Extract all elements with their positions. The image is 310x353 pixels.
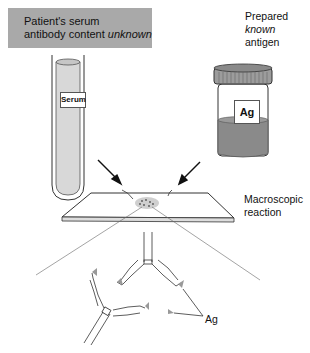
antigen-known-emphasis: known <box>245 23 288 36</box>
macro-line-2: reaction <box>244 206 303 219</box>
ag-callout-label: Ag <box>205 313 218 325</box>
antibody-icon <box>117 232 181 286</box>
antigen-vial-label: Ag <box>234 100 260 124</box>
macro-line-1: Macroscopic <box>244 193 303 206</box>
serum-description-box: Patient's serum antibody content unknown <box>8 8 152 48</box>
antigen-description: Prepared known antigen <box>245 10 288 49</box>
macroscopic-reaction-label: Macroscopic reaction <box>244 193 303 219</box>
ag-callout-lines <box>174 289 203 316</box>
serum-tube-label: Serum <box>60 92 86 108</box>
serum-line-2-text: antibody content <box>24 28 108 40</box>
antigen-line-1: Prepared <box>245 10 288 23</box>
serum-unknown-emphasis: unknown <box>108 28 152 40</box>
serum-line-1: Patient's serum <box>24 15 152 28</box>
diagram-canvas <box>0 0 310 353</box>
test-tube-icon <box>52 55 84 200</box>
antibody-icon <box>84 273 145 345</box>
glass-slide-icon <box>62 190 234 222</box>
serum-line-2: antibody content unknown <box>24 28 152 41</box>
arrow-icon <box>98 160 200 184</box>
antigen-line-3: antigen <box>245 36 288 49</box>
